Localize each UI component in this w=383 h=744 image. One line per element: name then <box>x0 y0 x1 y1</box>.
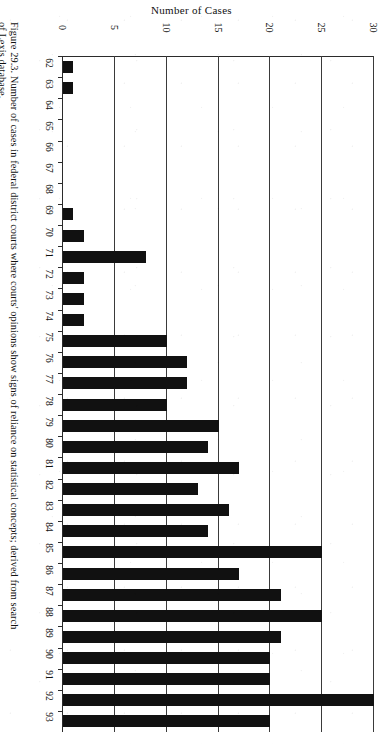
category-label: 78 <box>44 392 54 410</box>
bar-row: 91 <box>62 669 373 690</box>
category-tick-mark <box>58 457 62 458</box>
value-tick-label: 5 <box>108 13 119 43</box>
category-tick-mark <box>58 415 62 416</box>
category-label: 72 <box>44 265 54 283</box>
category-tick-mark <box>58 711 62 712</box>
bar-row: 73 <box>62 288 373 309</box>
category-tick-mark <box>58 394 62 395</box>
bar-row: 75 <box>62 331 373 352</box>
bar-chart: Number of Cases 051015202530 62636465666… <box>0 0 383 744</box>
bar-row: 80 <box>62 436 373 457</box>
value-tick-label: 20 <box>264 13 275 43</box>
category-label: 80 <box>44 434 54 452</box>
category-label: 73 <box>44 286 54 304</box>
category-tick-mark <box>58 246 62 247</box>
bar-row: 63 <box>62 77 373 98</box>
bar-row: 87 <box>62 584 373 605</box>
category-tick-mark <box>58 648 62 649</box>
bar-row: 81 <box>62 457 373 478</box>
bar <box>63 293 84 305</box>
bar <box>63 314 84 326</box>
category-label: 63 <box>44 75 54 93</box>
category-tick-mark <box>58 626 62 627</box>
bar <box>63 631 281 643</box>
bar-row: 74 <box>62 310 373 331</box>
category-tick-mark <box>58 77 62 78</box>
bar <box>63 377 187 389</box>
plot-area: 6263646566676869707172737475767778798081… <box>62 56 373 732</box>
bar <box>63 335 167 347</box>
bar-row: 77 <box>62 373 373 394</box>
category-tick-mark <box>58 288 62 289</box>
bar-row: 69 <box>62 204 373 225</box>
bar-row: 71 <box>62 246 373 267</box>
bar <box>63 525 208 537</box>
category-tick-mark <box>58 479 62 480</box>
category-label: 83 <box>44 497 54 515</box>
bar <box>63 251 146 263</box>
category-label: 82 <box>44 476 54 494</box>
category-tick-mark <box>58 690 62 691</box>
bar <box>63 208 73 220</box>
bar <box>63 82 73 94</box>
bar <box>63 589 281 601</box>
category-tick-mark <box>58 521 62 522</box>
category-label: 85 <box>44 539 54 557</box>
category-tick-mark <box>58 373 62 374</box>
bar <box>63 546 322 558</box>
bar-row: 82 <box>62 479 373 500</box>
bar-row: 72 <box>62 267 373 288</box>
category-label: 69 <box>44 201 54 219</box>
bar <box>63 272 84 284</box>
bar-row: 64 <box>62 98 373 119</box>
bar <box>63 441 208 453</box>
bar <box>63 230 84 242</box>
category-label: 84 <box>44 518 54 536</box>
category-label: 88 <box>44 603 54 621</box>
value-tick-label: 30 <box>368 13 379 43</box>
category-tick-mark <box>58 436 62 437</box>
bar <box>63 462 239 474</box>
category-tick-mark <box>58 119 62 120</box>
category-label: 86 <box>44 561 54 579</box>
category-label: 71 <box>44 244 54 262</box>
value-tick-label: 25 <box>316 13 327 43</box>
category-tick-mark <box>58 267 62 268</box>
category-tick-mark <box>58 56 62 57</box>
category-label: 91 <box>44 666 54 684</box>
bar-row: 93 <box>62 711 373 732</box>
category-label: 89 <box>44 624 54 642</box>
bar-row: 92 <box>62 690 373 711</box>
category-label: 75 <box>44 328 54 346</box>
bar <box>63 61 73 73</box>
category-label: 68 <box>44 180 54 198</box>
bar-row: 67 <box>62 162 373 183</box>
category-tick-mark <box>58 141 62 142</box>
category-tick-mark <box>58 225 62 226</box>
category-label: 74 <box>44 307 54 325</box>
bar <box>63 694 374 706</box>
category-tick-mark <box>58 669 62 670</box>
bar <box>63 568 239 580</box>
category-label: 64 <box>44 96 54 114</box>
category-tick-mark <box>58 563 62 564</box>
bar-row: 66 <box>62 141 373 162</box>
bar <box>63 673 270 685</box>
bar <box>63 356 187 368</box>
bar <box>63 652 270 664</box>
value-tick-label: 10 <box>160 13 171 43</box>
bar-row: 68 <box>62 183 373 204</box>
bar-row: 89 <box>62 626 373 647</box>
category-label: 90 <box>44 645 54 663</box>
category-tick-mark <box>58 331 62 332</box>
category-label: 79 <box>44 413 54 431</box>
category-tick-mark <box>58 310 62 311</box>
category-label: 65 <box>44 117 54 135</box>
category-label: 92 <box>44 687 54 705</box>
bar-row: 79 <box>62 415 373 436</box>
category-tick-mark <box>58 98 62 99</box>
category-label: 77 <box>44 370 54 388</box>
category-label: 67 <box>44 159 54 177</box>
bar <box>63 715 270 727</box>
category-label: 93 <box>44 708 54 726</box>
